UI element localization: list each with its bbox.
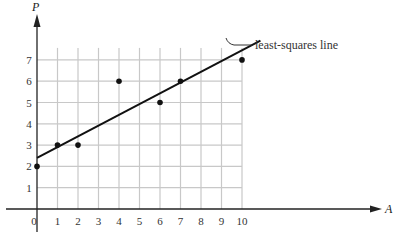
data-point bbox=[55, 142, 61, 148]
scatter-chart: A P 012345678910 1234567 least-squares l… bbox=[0, 0, 396, 236]
data-point bbox=[239, 57, 245, 63]
x-tick-label: 7 bbox=[178, 215, 184, 227]
data-point bbox=[178, 78, 184, 84]
x-tick-labels: 012345678910 bbox=[31, 215, 248, 227]
data-point bbox=[116, 78, 122, 84]
x-tick-label: 1 bbox=[55, 215, 61, 227]
axes: A P bbox=[6, 0, 393, 232]
annotation-leader-line bbox=[226, 38, 252, 45]
x-tick-label: 8 bbox=[198, 215, 204, 227]
x-tick-label: 2 bbox=[75, 215, 81, 227]
y-tick-label: 1 bbox=[26, 182, 32, 194]
x-tick-label: 10 bbox=[237, 215, 249, 227]
data-point bbox=[34, 164, 40, 170]
x-axis-arrow-icon bbox=[370, 206, 382, 213]
y-axis-arrow-icon bbox=[34, 14, 41, 27]
grid-lines bbox=[37, 48, 242, 209]
x-axis-label: A bbox=[384, 202, 393, 216]
x-tick-label: 5 bbox=[137, 215, 143, 227]
least-squares-line-label: least-squares line bbox=[255, 38, 338, 52]
y-tick-labels: 1234567 bbox=[26, 54, 32, 194]
x-tick-label: 6 bbox=[157, 215, 163, 227]
data-point bbox=[157, 100, 163, 106]
y-axis-label: P bbox=[31, 0, 40, 14]
x-tick-label: 9 bbox=[219, 215, 225, 227]
x-tick-label: 4 bbox=[116, 215, 122, 227]
least-squares-line bbox=[37, 41, 260, 158]
y-tick-label: 3 bbox=[26, 139, 32, 151]
y-tick-label: 4 bbox=[26, 118, 32, 130]
y-tick-label: 2 bbox=[26, 160, 32, 172]
x-tick-label: 0 bbox=[31, 215, 37, 227]
y-tick-label: 7 bbox=[26, 54, 32, 66]
x-tick-label: 3 bbox=[96, 215, 102, 227]
y-tick-label: 6 bbox=[26, 75, 32, 87]
data-point bbox=[75, 142, 81, 148]
y-tick-label: 5 bbox=[26, 97, 32, 109]
